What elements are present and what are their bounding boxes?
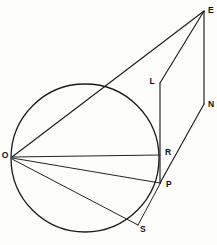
point-label-O: O [2,150,9,160]
segment-E-L [160,11,204,83]
main-circle [11,84,159,232]
segment-O-R [12,155,160,157]
segment-S-P [138,182,161,225]
point-label-R: R [165,147,171,157]
point-label-S: S [140,224,146,234]
geometry-figure: E L N R P O S [0,0,217,245]
geometry-canvas: E L N R P O S [0,0,217,245]
point-label-P: P [166,179,172,189]
segment-O-E [12,11,204,157]
point-label-N: N [208,99,214,109]
point-label-L: L [149,76,154,86]
point-label-E: E [208,5,214,15]
segment-N-P [160,104,204,183]
